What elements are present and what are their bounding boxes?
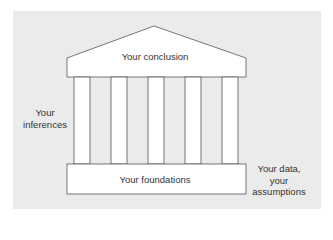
data-label-line-2: your	[248, 175, 310, 187]
column-3	[148, 77, 164, 164]
column-5	[222, 77, 238, 164]
column-4	[185, 77, 201, 164]
data-label-line-1: Your data,	[248, 163, 310, 175]
inferences-label: Your inferences	[15, 107, 75, 130]
roof-label: Your conclusion	[105, 51, 205, 63]
inferences-label-line-2: inferences	[15, 119, 75, 131]
base-label: Your foundations	[105, 174, 205, 186]
data-label-line-3: assumptions	[248, 186, 310, 198]
columns	[74, 77, 238, 164]
data-assumptions-label: Your data, your assumptions	[248, 163, 310, 198]
column-1	[74, 77, 90, 164]
column-2	[111, 77, 127, 164]
inferences-label-line-1: Your	[15, 107, 75, 119]
